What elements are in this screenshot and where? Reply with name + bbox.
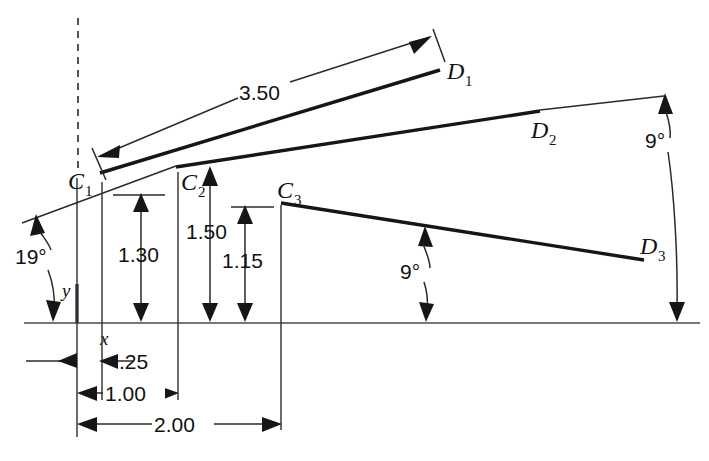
angle-label-19: 19° [15, 245, 47, 268]
leader-9-right-down [668, 152, 677, 310]
arrowhead-9-lower-down [419, 302, 434, 322]
point-label-c3-letter: C [277, 177, 294, 203]
point-label-d3-letter: D [639, 233, 657, 259]
point-label-d2-letter: D [530, 117, 548, 143]
leader-9-right-up [666, 112, 670, 138]
point-label-d1-subscript: 1 [465, 73, 473, 89]
chord-line-c2-d2 [176, 111, 540, 167]
arrowhead-200-left [77, 417, 97, 432]
point-label-c1: C 1 [68, 168, 93, 199]
point-label-c2: C 2 [181, 169, 206, 200]
dimension-label-100: 1.00 [105, 382, 146, 405]
arrowhead-150-up [202, 166, 218, 186]
dimension-label-350: 3.50 [239, 81, 280, 104]
dimension-line-350-right [290, 37, 430, 82]
y-axis-label: y [60, 280, 71, 301]
arrowhead-350-right [409, 36, 432, 54]
dimension-label-150: 1.50 [186, 220, 227, 243]
chord-line-c3-d3 [281, 203, 644, 260]
arrowhead-025-outer-right [58, 353, 77, 368]
dimension-label-115: 1.15 [222, 249, 263, 272]
angle-label-9-right: 9° [645, 129, 665, 152]
arrowhead-350-left [97, 145, 120, 158]
dimension-label-025: .25 [119, 350, 148, 373]
angle-label-9-lower: 9° [400, 260, 420, 283]
angle-reference-line-9-right [540, 96, 664, 110]
witness-tick-c1 [92, 148, 106, 180]
arrowhead-130-up [133, 193, 149, 212]
arrowhead-200-right [262, 417, 282, 432]
point-label-d1: D 1 [446, 58, 473, 89]
point-label-d3-subscript: 3 [658, 248, 666, 264]
dimension-label-200: 2.00 [154, 413, 195, 436]
point-label-c3-subscript: 3 [294, 192, 302, 208]
point-label-d2-subscript: 2 [549, 132, 557, 148]
arrowhead-100-left [77, 386, 97, 401]
x-axis-label: x [99, 328, 109, 349]
dimension-label-130: 1.30 [118, 243, 159, 266]
point-label-c2-letter: C [181, 169, 198, 195]
arrowhead-9-right-down [669, 302, 685, 322]
diagram-canvas: 3.50 19° y x C 1 C 2 C 3 D 1 D 2 D 3 1.3… [0, 0, 709, 461]
point-label-c1-subscript: 1 [85, 183, 93, 199]
point-label-d2: D 2 [530, 117, 557, 148]
arrowhead-19-down [46, 300, 61, 322]
arrowhead-115-down [237, 303, 253, 322]
point-label-c1-letter: C [68, 168, 85, 194]
point-label-d1-letter: D [446, 58, 464, 84]
arrowhead-9-lower-up [418, 226, 433, 247]
technical-drawing: 3.50 19° y x C 1 C 2 C 3 D 1 D 2 D 3 1.3… [0, 0, 709, 461]
point-label-c2-subscript: 2 [198, 184, 206, 200]
arrowhead-130-down [133, 303, 149, 322]
arrowhead-150-down [202, 303, 218, 322]
arrowhead-115-up [237, 205, 253, 224]
arrowhead-19-up [30, 214, 45, 236]
dimension-line-350-left [100, 98, 238, 156]
witness-tick-d1 [433, 29, 445, 62]
leader-9-lower-up [423, 244, 430, 268]
